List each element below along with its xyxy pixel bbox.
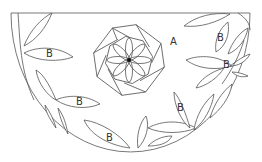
center-dot bbox=[127, 58, 131, 62]
label-leaf-b: B bbox=[76, 96, 83, 107]
label-leaf-b: B bbox=[106, 132, 113, 143]
label-leaf-b: B bbox=[46, 48, 53, 59]
label-leaf-b: B bbox=[217, 32, 224, 43]
octagon-rosette bbox=[91, 22, 168, 99]
label-leaf-b: B bbox=[223, 59, 230, 70]
label-region-a: A bbox=[170, 36, 177, 47]
diagram-canvas: A B B B B B B bbox=[0, 0, 262, 162]
label-leaf-b: B bbox=[177, 102, 184, 113]
leaves bbox=[18, 13, 250, 148]
semicircle-diagram: A B B B B B B bbox=[0, 0, 262, 162]
